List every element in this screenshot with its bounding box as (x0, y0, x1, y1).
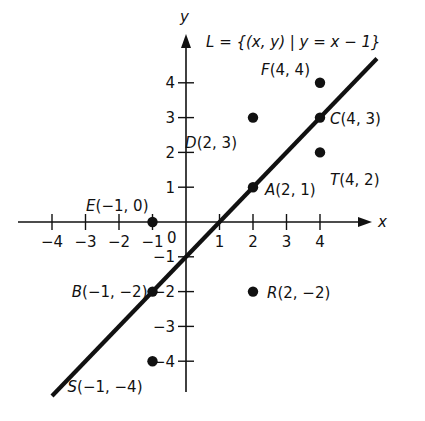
y-tick-label: −1 (153, 248, 175, 266)
point-a-dot-icon (248, 182, 258, 192)
point-t-dot-icon (315, 147, 325, 157)
y-tick-label: −3 (153, 318, 175, 336)
x-tick-label: −4 (41, 233, 63, 251)
y-tick-label: 1 (165, 179, 175, 197)
point-c-label: C(4, 3) (330, 110, 381, 128)
point-b-label: B(−1, −2) (72, 283, 148, 301)
point-e-label: E(−1, 0) (86, 197, 148, 215)
x-tick-label: 4 (315, 233, 325, 251)
set-title-text: L = {(x, y) | y = x − 1} (206, 33, 381, 51)
point-s-dot-icon (147, 356, 157, 366)
points: F(4, 4)D(2, 3)C(4, 3)T(4, 2)A(2, 1)E(−1,… (68, 61, 381, 396)
set-title: L = {(x, y) | y = x − 1} (206, 33, 381, 51)
point-f-label: F(4, 4) (261, 61, 310, 79)
line-l (52, 58, 377, 396)
point-f-dot-icon (315, 78, 325, 88)
y-axis-label: y (179, 8, 190, 26)
axes: x y 0 (18, 8, 387, 392)
point-d-label: D(2, 3) (185, 134, 237, 152)
point-a-label: A(2, 1) (264, 181, 316, 199)
x-tick-label: −2 (108, 233, 130, 251)
point-s-label: S(−1, −4) (68, 378, 143, 396)
y-tick-label: 4 (165, 74, 175, 92)
point-t-label: T(4, 2) (330, 171, 380, 189)
point-d-dot-icon (248, 112, 258, 122)
x-axis-label: x (377, 213, 387, 231)
y-tick-label: 3 (165, 109, 175, 127)
line-y-equals-x-minus-1 (52, 58, 377, 396)
coordinate-plane: x y 0 −4−3−2−11234 4321−1−2−3−4 F(4, 4)D… (0, 0, 425, 421)
origin-label: 0 (167, 229, 177, 247)
point-r-label: R(2, −2) (267, 284, 330, 302)
point-c-dot-icon (315, 112, 325, 122)
x-tick-label: 1 (215, 233, 225, 251)
y-axis-arrow-icon (181, 34, 191, 48)
x-tick-label: −3 (74, 233, 96, 251)
x-ticks: −4−3−2−11234 (41, 214, 325, 251)
x-axis-arrow-icon (358, 217, 372, 227)
x-tick-label: 2 (248, 233, 258, 251)
y-tick-label: 2 (165, 144, 175, 162)
point-r-dot-icon (248, 286, 258, 296)
point-b-dot-icon (147, 286, 157, 296)
x-tick-label: 3 (282, 233, 292, 251)
point-e-dot-icon (147, 217, 157, 227)
